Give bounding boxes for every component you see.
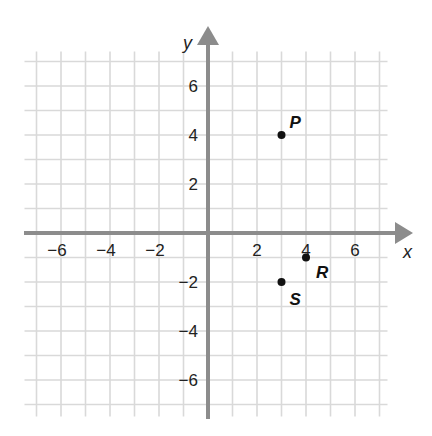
- point-marker: [278, 131, 286, 139]
- y-axis-label: y: [181, 33, 193, 53]
- x-tick-label: −6: [47, 241, 66, 260]
- y-axis-arrow-icon: [197, 26, 219, 45]
- x-tick-label: −4: [96, 241, 115, 260]
- y-tick-label: −2: [179, 273, 198, 292]
- point-marker: [302, 254, 310, 262]
- x-tick-label: 2: [252, 241, 261, 260]
- data-points: PRS: [278, 113, 330, 309]
- point-label: R: [316, 263, 329, 282]
- point-label: S: [290, 290, 302, 309]
- x-tick-label: −2: [145, 241, 164, 260]
- y-tick-label: −6: [179, 371, 198, 390]
- point-marker: [278, 278, 286, 286]
- x-axis-arrow-icon: [395, 222, 413, 244]
- x-axis-label: x: [402, 242, 413, 262]
- coordinate-plane: −6−4−2246642−2−4−6 PRS x y: [0, 0, 432, 436]
- y-tick-label: −4: [179, 322, 198, 341]
- y-tick-label: 2: [189, 175, 198, 194]
- y-tick-label: 6: [189, 77, 198, 96]
- x-tick-label: 6: [350, 241, 359, 260]
- y-tick-label: 4: [189, 126, 198, 145]
- point-label: P: [290, 113, 302, 132]
